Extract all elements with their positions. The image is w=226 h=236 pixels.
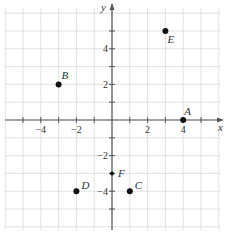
point-label: C: [135, 179, 143, 191]
y-tick-label: −4: [97, 186, 108, 197]
point-label: A: [183, 105, 191, 117]
y-axis-arrow-icon: [110, 3, 115, 10]
y-tick-label: −2: [97, 150, 108, 161]
axes: [5, 3, 224, 230]
y-tick-label: 2: [103, 79, 108, 90]
point-label: E: [166, 33, 174, 45]
point-label: D: [80, 179, 89, 191]
point-label: F: [117, 167, 125, 179]
x-tick-label: −4: [35, 124, 46, 135]
point-label: B: [62, 69, 69, 81]
y-tick-label: 4: [103, 43, 108, 54]
x-tick-label: 4: [181, 124, 186, 135]
x-tick-label: −2: [71, 124, 82, 135]
point-e: E: [162, 28, 174, 45]
x-axis-label: x: [217, 121, 223, 133]
y-axis-label: y: [100, 1, 106, 13]
point-marker-icon: [180, 117, 186, 123]
point-marker-icon: [73, 188, 79, 194]
x-tick-label: 2: [145, 124, 150, 135]
coordinate-plane: −4−22442−2−4 ABCDEF x y: [0, 0, 226, 236]
point-d: D: [73, 179, 89, 194]
point-marker-icon: [56, 81, 62, 87]
point-marker-icon: [127, 188, 133, 194]
point-c: C: [127, 179, 143, 194]
data-points: ABCDEF: [56, 28, 192, 194]
point-marker-icon: [110, 171, 114, 175]
